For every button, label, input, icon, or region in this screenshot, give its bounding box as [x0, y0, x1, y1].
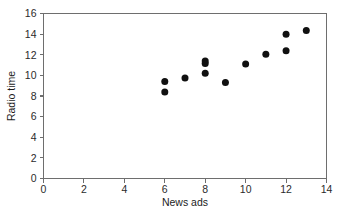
- x-axis-tick-label: 0: [41, 183, 47, 195]
- chart-canvas: 0246810121416 02468101214 News ads Radio…: [0, 0, 337, 215]
- data-point: [202, 60, 209, 67]
- x-axis-tick-label: 4: [121, 183, 127, 195]
- y-axis-tick-label: 4: [31, 131, 37, 143]
- x-axis-title: News ads: [162, 196, 208, 208]
- y-axis-tick-label: 10: [25, 69, 37, 81]
- y-axis-tick-label: 14: [25, 28, 37, 40]
- scatter-plot-figure: 0246810121416 02468101214 News ads Radio…: [0, 0, 337, 215]
- data-point: [242, 61, 249, 68]
- data-point: [283, 31, 290, 38]
- x-axis-tick-label: 6: [162, 183, 168, 195]
- y-axis-title: Radio time: [5, 71, 17, 121]
- data-point: [202, 70, 209, 77]
- y-axis-tick-label: 6: [31, 110, 37, 122]
- x-axis-tick-label: 10: [240, 183, 252, 195]
- x-axis-tick-label: 12: [280, 183, 292, 195]
- x-axis-tick-label: 2: [81, 183, 87, 195]
- y-axis-tick-label: 12: [25, 49, 37, 61]
- data-point: [262, 51, 269, 58]
- data-point: [303, 27, 310, 34]
- y-axis-tick-label: 16: [25, 7, 37, 19]
- data-point: [182, 74, 189, 81]
- data-point: [283, 47, 290, 54]
- y-axis-tick-label: 0: [31, 172, 37, 184]
- data-point: [222, 79, 229, 86]
- data-point: [161, 78, 168, 85]
- y-axis-tick-label: 2: [31, 152, 37, 164]
- x-axis-tick-label: 14: [321, 183, 333, 195]
- x-axis-tick-label: 8: [202, 183, 208, 195]
- y-axis-tick-label: 8: [31, 90, 37, 102]
- data-point: [161, 88, 168, 95]
